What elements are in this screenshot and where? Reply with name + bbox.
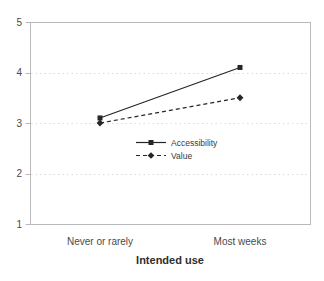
y-tick-label-4: 4 (0, 67, 22, 78)
legend: Accessibility Value (136, 136, 217, 162)
solid-line-square-marker-icon (136, 138, 166, 147)
x-category-label-most-weeks: Most weeks (214, 236, 267, 247)
y-tick-label-2: 2 (0, 168, 22, 179)
legend-label-value: Value (171, 151, 192, 161)
y-tick-label-5: 5 (0, 17, 22, 28)
dashed-line-diamond-marker-icon (136, 151, 166, 160)
legend-label-accessibility: Accessibility (171, 138, 217, 148)
line-chart-figure: 5 4 3 2 1 Never or rarely Most weeks Acc… (0, 0, 324, 281)
legend-item-value: Value (136, 149, 217, 162)
x-category-label-never-or-rarely: Never or rarely (67, 236, 133, 247)
y-tick-label-1: 1 (0, 219, 22, 230)
x-axis-title: Intended use (136, 254, 204, 266)
legend-item-accessibility: Accessibility (136, 136, 217, 149)
y-tick-label-3: 3 (0, 118, 22, 129)
